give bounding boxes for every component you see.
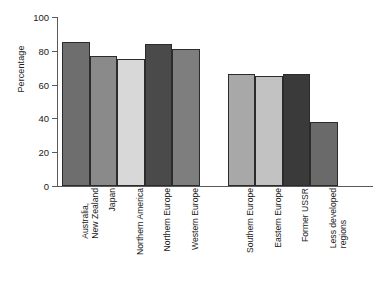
bar bbox=[145, 44, 173, 186]
y-tick-label-20: 20 bbox=[23, 147, 49, 158]
x-label-southern-europe: Southern Europe bbox=[245, 188, 255, 253]
bar bbox=[283, 74, 311, 186]
bar bbox=[62, 42, 90, 186]
x-label-line2: regions bbox=[338, 188, 348, 248]
y-axis-line bbox=[57, 17, 58, 187]
x-label-line1: Western Europe bbox=[190, 188, 200, 250]
bar-chart: Percentage 0 20 40 60 80 100 bbox=[0, 0, 380, 289]
x-label-line1: Japan bbox=[107, 188, 117, 211]
x-label-line1: Southern Europe bbox=[245, 188, 255, 253]
y-tick-20 bbox=[52, 152, 57, 153]
x-label-line1: Former USSR bbox=[300, 188, 310, 242]
y-tick-label-60: 60 bbox=[23, 79, 49, 90]
y-tick-0 bbox=[52, 186, 57, 187]
plot-area: 0 20 40 60 80 100 bbox=[57, 17, 373, 186]
x-label-western-europe: Western Europe bbox=[190, 188, 200, 250]
bar bbox=[255, 76, 283, 186]
x-label-line1: Eastern Europe bbox=[273, 188, 283, 248]
x-label-former-ussr: Former USSR bbox=[300, 188, 310, 242]
x-axis-line bbox=[57, 186, 373, 187]
y-tick-label-100: 100 bbox=[23, 12, 49, 23]
y-tick-label-40: 40 bbox=[23, 113, 49, 124]
x-label-northern-europe: Northern Europe bbox=[162, 188, 172, 252]
x-label-line2: New Zealand bbox=[90, 188, 100, 239]
x-label-line1: Australia, bbox=[80, 203, 90, 239]
x-label-line1: Northern Europe bbox=[162, 188, 172, 252]
y-tick-label-80: 80 bbox=[23, 45, 49, 56]
y-tick-80 bbox=[52, 51, 57, 52]
x-label-line1: Northern America bbox=[135, 188, 145, 255]
y-axis-title: Percentage bbox=[16, 14, 26, 124]
y-tick-label-0: 0 bbox=[23, 181, 49, 192]
x-label-northern-america: Northern America bbox=[135, 188, 145, 255]
x-label-line1: Less developed bbox=[328, 188, 338, 248]
bar bbox=[228, 74, 256, 186]
x-label-japan: Japan bbox=[107, 188, 117, 211]
bar bbox=[310, 122, 338, 186]
bar bbox=[117, 59, 145, 186]
y-tick-60 bbox=[52, 85, 57, 86]
bar bbox=[90, 56, 118, 186]
y-tick-40 bbox=[52, 118, 57, 119]
x-axis-labels: Australia, New Zealand Japan Northern Am… bbox=[57, 188, 373, 288]
x-label-less-developed-regions: Less developed regions bbox=[328, 188, 348, 248]
x-label-eastern-europe: Eastern Europe bbox=[273, 188, 283, 248]
bar bbox=[172, 49, 200, 186]
y-tick-100 bbox=[52, 17, 57, 18]
x-label-australia-new-zealand: Australia, New Zealand bbox=[80, 188, 100, 239]
